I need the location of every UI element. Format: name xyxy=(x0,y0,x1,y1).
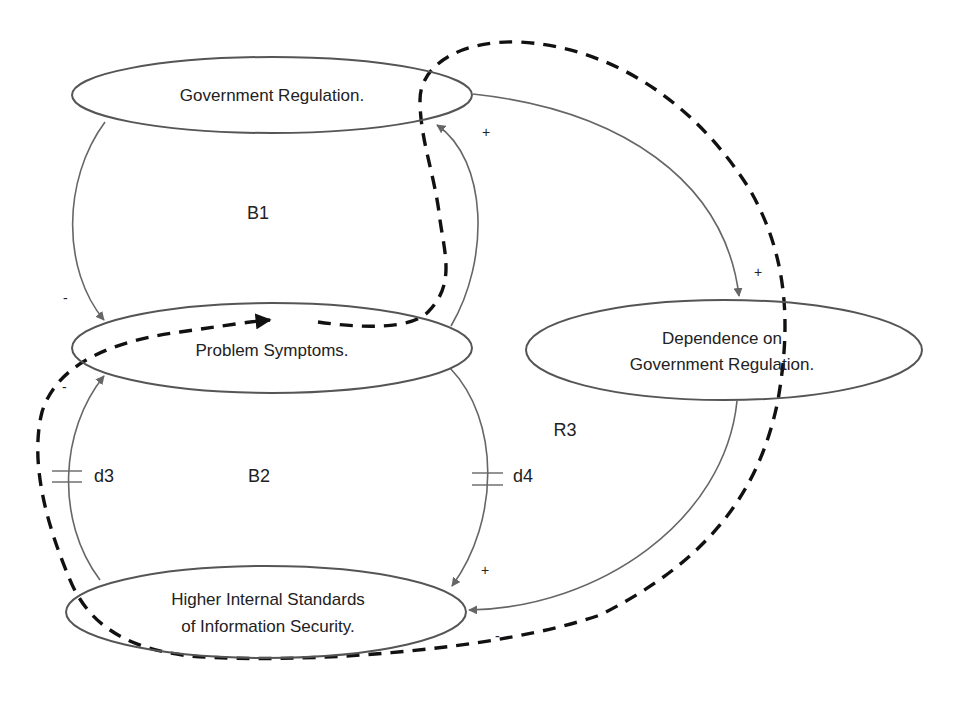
node-higher-internal-standards: Higher Internal Standards of Information… xyxy=(66,566,466,658)
node-label-dependence-line2: Government Regulation. xyxy=(630,355,814,374)
delay-label-d4: d4 xyxy=(513,466,533,486)
polarity-sign-dependence-minus: - xyxy=(495,628,500,644)
loop-label-r3: R3 xyxy=(553,420,576,440)
delay-label-d3: d3 xyxy=(94,466,114,486)
link-problem-to-standards xyxy=(450,368,488,586)
loop-label-b2: B2 xyxy=(248,466,270,486)
polarity-sign-gov-to-dependence-plus: + xyxy=(754,264,762,280)
delay-marks xyxy=(52,471,503,485)
link-problem-to-gov xyxy=(437,125,478,326)
node-label-dependence-line1: Dependence on xyxy=(662,329,782,348)
node-dependence-on-government-regulation: Dependence on Government Regulation. xyxy=(526,300,922,400)
link-gov-to-problem xyxy=(73,122,105,320)
polarity-sign-problem-to-gov-plus: + xyxy=(482,124,490,140)
loop-label-b1: B1 xyxy=(247,203,269,223)
node-label-government-regulation: Government Regulation. xyxy=(180,86,364,105)
polarity-sign-d3-minus: - xyxy=(62,379,67,395)
node-government-regulation: Government Regulation. xyxy=(72,57,472,133)
node-problem-symptoms: Problem Symptoms. xyxy=(72,303,472,393)
polarity-sign-d4-plus: + xyxy=(481,562,489,578)
causal-loop-diagram: Government Regulation. Problem Symptoms.… xyxy=(0,0,961,707)
node-label-standards-line1: Higher Internal Standards xyxy=(171,590,365,609)
link-dependence-to-standards xyxy=(469,401,737,610)
node-label-problem-symptoms: Problem Symptoms. xyxy=(195,341,348,360)
node-label-standards-line2: of Information Security. xyxy=(181,617,355,636)
polarity-sign-b1-minus: - xyxy=(63,290,68,306)
